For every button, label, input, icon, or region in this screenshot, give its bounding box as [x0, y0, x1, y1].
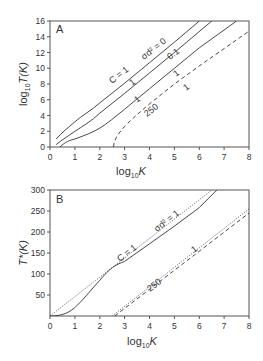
- svg-text:1: 1: [127, 77, 137, 88]
- curve-a-sigma1: [60, 21, 237, 147]
- svg-text:σd² = 0: σd² = 0: [139, 36, 168, 62]
- panel-b-label: B: [56, 193, 63, 205]
- svg-text:100: 100: [31, 269, 45, 279]
- svg-text:6: 6: [197, 321, 202, 331]
- panel-b-x-tick-labels: 0 1 2 3 4 5 6 7 8: [48, 321, 252, 331]
- svg-text:250: 250: [145, 276, 163, 293]
- panel-b-y-label: T*(K): [17, 240, 29, 266]
- svg-text:C = 1: C = 1: [107, 64, 130, 85]
- svg-text:200: 200: [31, 227, 45, 237]
- svg-text:50: 50: [36, 290, 46, 300]
- svg-text:12: 12: [36, 48, 46, 58]
- svg-text:2: 2: [40, 126, 45, 136]
- svg-text:6: 6: [40, 95, 45, 105]
- svg-text:8: 8: [40, 79, 45, 89]
- svg-text:2: 2: [97, 321, 102, 331]
- svg-text:8: 8: [247, 152, 252, 162]
- svg-text:250: 250: [142, 101, 160, 118]
- svg-text:16: 16: [36, 16, 46, 26]
- panel-a-y-label: log10T(K): [17, 62, 31, 106]
- svg-text:0: 0: [48, 152, 53, 162]
- svg-text:7: 7: [222, 321, 227, 331]
- curve-a-c250: [114, 31, 250, 147]
- panel-a-y-tick-labels: 0 2 4 6 8 10 12 14 16: [36, 16, 46, 152]
- svg-text:3: 3: [122, 152, 127, 162]
- svg-text:0: 0: [40, 142, 45, 152]
- svg-text:4: 4: [40, 111, 45, 121]
- panel-a-x-tick-labels: 0 1 2 3 4 5 6 7 8: [48, 152, 252, 162]
- panel-a-curves: [56, 21, 249, 147]
- svg-text:3: 3: [122, 321, 127, 331]
- curve-b-c250-dashed: [115, 213, 249, 316]
- svg-text:1: 1: [181, 82, 191, 93]
- svg-text:1: 1: [73, 152, 78, 162]
- figure: A 0 2 4 6 8 10 12 14 16: [0, 0, 263, 361]
- panel-b-frame: [50, 190, 249, 316]
- svg-text:8: 8: [247, 321, 252, 331]
- svg-text:1: 1: [73, 321, 78, 331]
- panel-a: A 0 2 4 6 8 10 12 14 16: [17, 16, 252, 179]
- svg-text:σd² = 1: σd² = 1: [152, 208, 181, 234]
- curve-b-c250-dotted: [112, 209, 249, 316]
- svg-text:7: 7: [222, 152, 227, 162]
- svg-text:1: 1: [132, 94, 142, 105]
- svg-text:4: 4: [147, 152, 152, 162]
- svg-text:5: 5: [172, 152, 177, 162]
- svg-text:250: 250: [31, 206, 45, 216]
- svg-text:6: 6: [197, 152, 202, 162]
- panel-a-x-label: log10K: [116, 165, 146, 179]
- svg-text:4: 4: [147, 321, 152, 331]
- panel-b-annotations: C = 1 σd² = 1 1 250: [115, 208, 199, 294]
- svg-text:300: 300: [31, 185, 45, 195]
- svg-text:5: 5: [172, 321, 177, 331]
- svg-text:0: 0: [48, 321, 53, 331]
- panel-a-annotations: C = 1 σd² = 0 0.1 1 1 1 1 250: [107, 36, 191, 119]
- panel-b-curves: [50, 190, 249, 316]
- svg-text:10: 10: [36, 63, 46, 73]
- svg-text:14: 14: [36, 32, 46, 42]
- panel-b-y-tick-labels: 50 100 150 200 250 300: [31, 185, 45, 300]
- panel-b: B 50 100 150 200 250 300 0 1 2 3 4: [17, 185, 252, 349]
- panel-a-label: A: [56, 23, 64, 35]
- svg-text:1: 1: [171, 68, 181, 79]
- svg-text:150: 150: [31, 248, 45, 258]
- panel-b-x-label: log10K: [127, 335, 157, 349]
- svg-text:2: 2: [97, 152, 102, 162]
